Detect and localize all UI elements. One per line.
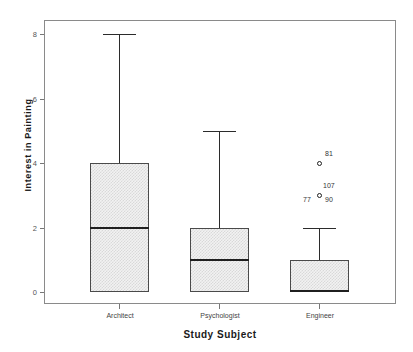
x-tick-label-architect: Architect bbox=[75, 312, 165, 319]
y-tick-mark-0 bbox=[40, 292, 44, 293]
x-tick-mark-psychologist bbox=[219, 304, 220, 309]
whisker-cap-upper-psychologist bbox=[203, 131, 236, 132]
y-tick-label-4: 4 bbox=[21, 159, 37, 168]
outlier-label-107: 107 bbox=[323, 182, 335, 189]
x-tick-label-engineer: Engineer bbox=[275, 312, 365, 319]
y-tick-label-2: 2 bbox=[21, 224, 37, 233]
y-axis-title: Interest in Painting bbox=[23, 55, 33, 235]
boxplot-chart: Interest in Painting 8 6 4 2 0 81 107 77… bbox=[0, 0, 413, 352]
whisker-cap-upper-architect bbox=[103, 34, 136, 35]
outlier-marker-107-77-90 bbox=[317, 193, 322, 198]
y-tick-mark-2 bbox=[40, 228, 44, 229]
whisker-upper-architect bbox=[119, 34, 120, 163]
x-axis-title: Study Subject bbox=[44, 329, 396, 340]
outlier-label-90: 90 bbox=[325, 196, 333, 203]
x-tick-mark-architect bbox=[119, 304, 120, 309]
y-tick-mark-4 bbox=[40, 163, 44, 164]
median-line-psychologist bbox=[190, 259, 249, 261]
whisker-upper-psychologist bbox=[219, 131, 220, 228]
median-line-engineer bbox=[290, 290, 349, 292]
y-tick-label-0: 0 bbox=[21, 288, 37, 297]
median-line-architect bbox=[90, 227, 149, 229]
y-tick-mark-6 bbox=[40, 99, 44, 100]
outlier-label-77: 77 bbox=[303, 196, 311, 203]
y-tick-label-8: 8 bbox=[21, 30, 37, 39]
whisker-cap-upper-engineer bbox=[303, 228, 336, 229]
y-tick-label-6: 6 bbox=[21, 95, 37, 104]
outlier-label-81: 81 bbox=[325, 150, 333, 157]
outlier-marker-81 bbox=[317, 161, 322, 166]
y-tick-mark-8 bbox=[40, 34, 44, 35]
box-engineer bbox=[290, 260, 349, 292]
x-tick-mark-engineer bbox=[319, 304, 320, 309]
whisker-upper-engineer bbox=[319, 228, 320, 260]
x-tick-label-psychologist: Psychologist bbox=[175, 312, 265, 319]
